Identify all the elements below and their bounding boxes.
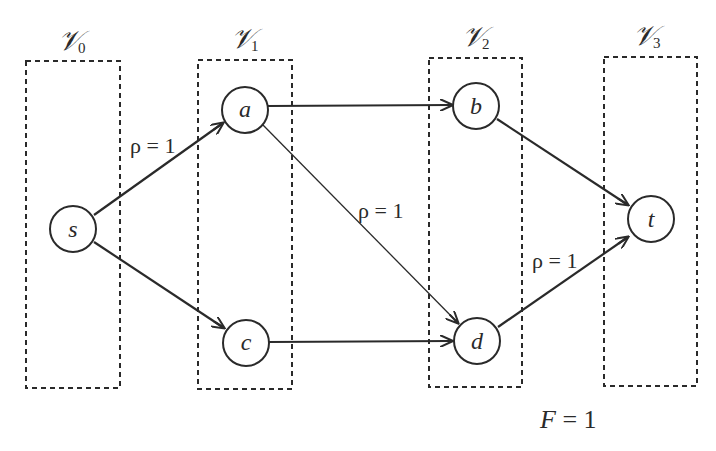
svg-text:0: 0 bbox=[78, 40, 86, 56]
node-s: s bbox=[50, 206, 96, 252]
node-b: b bbox=[453, 83, 499, 129]
edge-label-a-d: ρ = 1 bbox=[358, 198, 403, 223]
svg-text:a: a bbox=[239, 96, 251, 122]
svg-text:d: d bbox=[471, 328, 484, 354]
node-d: d bbox=[454, 318, 500, 364]
edge-s-c bbox=[94, 242, 224, 328]
edge-label-d-t: ρ = 1 bbox=[532, 248, 577, 273]
edge-a-b bbox=[268, 105, 452, 106]
edge-c-d bbox=[269, 341, 452, 342]
partition-label-v3: 𝒱 3 bbox=[633, 20, 665, 51]
node-a: a bbox=[222, 87, 268, 133]
node-c: c bbox=[223, 320, 269, 366]
svg-text:1: 1 bbox=[251, 38, 259, 54]
svg-text:s: s bbox=[68, 216, 77, 242]
node-t: t bbox=[628, 196, 674, 242]
partition-label-v1: 𝒱 1 bbox=[231, 23, 263, 54]
partition-label-v0: 𝒱 0 bbox=[58, 25, 90, 56]
svg-text:b: b bbox=[470, 93, 482, 119]
layered-graph-diagram: 𝒱 0 𝒱 1 𝒱 2 𝒱 3 s a c b d t bbox=[0, 0, 716, 451]
svg-text:2: 2 bbox=[482, 36, 490, 52]
svg-text:c: c bbox=[241, 329, 252, 355]
flow-value: F = 1 bbox=[539, 405, 597, 434]
edge-label-s-a: ρ = 1 bbox=[130, 133, 175, 158]
svg-text:3: 3 bbox=[653, 35, 661, 51]
edge-b-t bbox=[497, 119, 628, 205]
partition-label-v2: 𝒱 2 bbox=[462, 21, 494, 52]
